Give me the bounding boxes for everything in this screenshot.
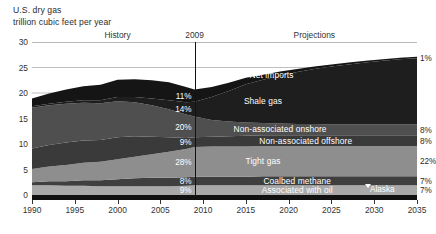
plot-area <box>32 42 417 195</box>
y-axis-tick-label: 10 <box>19 139 28 149</box>
series-label-coalbed-methane: Coalbed methane <box>263 176 331 186</box>
left-percent-callout: 20% <box>175 122 191 131</box>
x-axis-tick-label: 1995 <box>65 205 84 215</box>
y-axis-tick-label: 25 <box>19 63 28 73</box>
series-label-non-associated-onshore: Non-associated onshore <box>234 124 327 134</box>
x-axis-tick-mark <box>246 200 247 204</box>
chart-title: U.S. dry gas <box>13 5 61 15</box>
x-axis-tick-label: 2015 <box>237 205 256 215</box>
x-axis-tick-mark <box>417 200 418 204</box>
x-axis-tick-label: 2035 <box>408 205 427 215</box>
x-axis-tick-label: 2005 <box>151 205 170 215</box>
y-axis-tick-label: 5 <box>23 165 28 175</box>
right-percent-callout: 7% <box>420 186 432 195</box>
divider-year-label: 2009 <box>185 30 204 40</box>
x-axis-tick-mark <box>203 200 204 204</box>
y-axis-tick-label: 15 <box>19 114 28 124</box>
right-percent-callout: 22% <box>420 157 436 166</box>
x-axis-tick-label: 2020 <box>279 205 298 215</box>
x-axis-tick-label: 2030 <box>365 205 384 215</box>
x-axis-bar <box>32 195 417 200</box>
x-axis-tick-mark <box>160 200 161 204</box>
series-label-net-imports: Net imports <box>250 70 294 80</box>
right-percent-callout: 1% <box>420 53 432 62</box>
alaska-annotation-label: Alaska <box>370 185 395 194</box>
left-percent-callout: 11% <box>176 91 192 100</box>
x-axis-tick-mark <box>118 200 119 204</box>
y-axis-tick-label: 20 <box>19 88 28 98</box>
x-axis-tick-label: 2010 <box>194 205 213 215</box>
x-axis-tick-label: 1990 <box>23 205 42 215</box>
area-band <box>32 185 417 195</box>
area-bands <box>32 57 417 195</box>
x-axis-tick-label: 2025 <box>322 205 341 215</box>
x-axis-tick-mark <box>289 200 290 204</box>
series-label-associated-with-oil: Associated with oil <box>262 185 333 195</box>
x-axis-tick-mark <box>374 200 375 204</box>
x-axis-tick-mark <box>331 200 332 204</box>
series-label-non-associated-offshore: Non-associated offshore <box>259 136 352 146</box>
left-percent-callout: 8% <box>180 176 192 185</box>
year-2009-marker-line <box>195 42 196 195</box>
history-region-label: History <box>105 30 131 40</box>
x-axis-tick-mark <box>32 200 33 204</box>
right-percent-callout: 7% <box>420 176 432 185</box>
right-percent-callout: 8% <box>420 125 432 134</box>
y-axis-tick-label: 30 <box>19 37 28 47</box>
stacked-area-svg <box>32 42 417 195</box>
left-percent-callout: 14% <box>175 105 191 114</box>
x-axis-tick-label: 2000 <box>108 205 127 215</box>
chart-subtitle: trillion cubic feet per year <box>13 17 111 27</box>
series-label-tight-gas: Tight gas <box>245 156 280 166</box>
projections-region-label: Projections <box>294 30 335 40</box>
y-axis-tick-label: 0 <box>23 190 28 200</box>
x-axis-tick-mark <box>75 200 76 204</box>
series-label-shale-gas: Shale gas <box>244 96 282 106</box>
right-percent-callout: 8% <box>420 136 432 145</box>
left-percent-callout: 28% <box>175 157 191 166</box>
left-percent-callout: 9% <box>180 138 192 147</box>
left-percent-callout: 9% <box>180 186 192 195</box>
